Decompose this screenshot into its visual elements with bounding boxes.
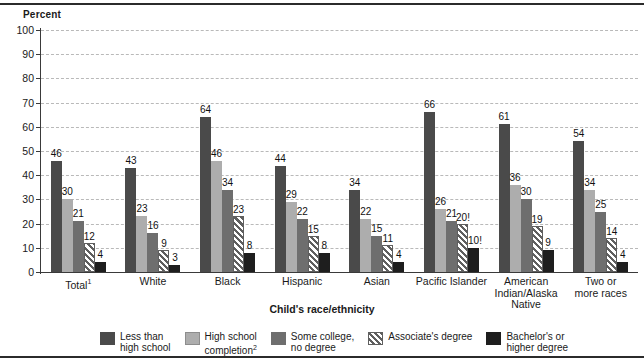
- bar[interactable]: 22: [297, 219, 308, 272]
- legend-label: Some college,no degree: [291, 331, 354, 353]
- bar-value-label: 54: [573, 128, 584, 139]
- bar-value-label: 29: [286, 189, 297, 200]
- chart-root: Percent 0102030405060708090100 463021124…: [0, 0, 644, 360]
- legend-swatch: [271, 332, 286, 345]
- legend-item[interactable]: Less thanhigh school: [100, 331, 171, 353]
- y-tick-label: 10: [0, 242, 34, 254]
- bar[interactable]: 34: [349, 190, 360, 272]
- bar[interactable]: 61: [499, 124, 510, 272]
- y-tick-label: 30: [0, 193, 34, 205]
- bar-value-label: 26: [435, 196, 446, 207]
- bar[interactable]: 44: [275, 166, 286, 272]
- y-tick-label: 80: [0, 72, 34, 84]
- bar[interactable]: 11: [382, 245, 393, 272]
- bar-group: 613630199AmericanIndian/AlaskaNative: [489, 30, 564, 272]
- bar-group: 543425144Two ormore races: [563, 30, 638, 272]
- bar[interactable]: 23: [233, 216, 244, 272]
- bar-value-label: 9: [161, 238, 167, 249]
- bar-value-label: 46: [51, 148, 62, 159]
- y-axis-title: Percent: [23, 9, 61, 20]
- bar[interactable]: 19: [532, 226, 543, 272]
- bar[interactable]: 46: [211, 161, 222, 272]
- legend-item[interactable]: High schoolcompletion2: [185, 331, 257, 356]
- legend-item[interactable]: Bachelor's orhigher degree: [486, 331, 568, 353]
- bar-group: 644634238Black: [190, 30, 265, 272]
- x-category-label: Hispanic: [282, 276, 322, 288]
- bar[interactable]: 64: [200, 117, 211, 272]
- y-tick-label: 40: [0, 169, 34, 181]
- bar-value-label: 46: [211, 148, 222, 159]
- bar[interactable]: 26: [435, 209, 446, 272]
- y-tick-label: 60: [0, 121, 34, 133]
- legend-label: Less thanhigh school: [120, 331, 171, 353]
- bar-value-label: 22: [297, 206, 308, 217]
- bar[interactable]: 23: [136, 216, 147, 272]
- legend-item[interactable]: Some college,no degree: [271, 331, 354, 353]
- legend-item[interactable]: Associate's degree: [368, 331, 472, 345]
- y-tick-label: 50: [0, 145, 34, 157]
- bar[interactable]: 21: [446, 221, 457, 272]
- bar-cluster: 43231693: [125, 30, 180, 272]
- bar[interactable]: 9: [543, 250, 554, 272]
- bar[interactable]: 54: [573, 141, 584, 272]
- legend-label: Bachelor's orhigher degree: [506, 331, 568, 353]
- bar[interactable]: 8: [244, 253, 255, 272]
- bar-value-label: 30: [521, 186, 532, 197]
- bar[interactable]: 9: [158, 250, 169, 272]
- y-tick-label: 100: [0, 24, 34, 36]
- bar[interactable]: 4: [617, 262, 628, 272]
- bar-cluster: 442922158: [275, 30, 330, 272]
- bar-group: 463021124Total1: [41, 30, 116, 272]
- bar[interactable]: 10!: [468, 248, 479, 272]
- bar[interactable]: 4: [393, 262, 404, 272]
- bar-value-label: 4: [98, 249, 104, 260]
- x-category-label: Black: [215, 276, 241, 288]
- bar-value-label: 36: [510, 172, 521, 183]
- bar-cluster: 66262120!10!: [424, 30, 479, 272]
- bar-value-label: 34: [584, 177, 595, 188]
- bar[interactable]: 21: [73, 221, 84, 272]
- bar[interactable]: 34: [584, 190, 595, 272]
- bar[interactable]: 36: [510, 185, 521, 272]
- bar[interactable]: 15: [371, 236, 382, 272]
- bar-group: 43231693White: [116, 30, 191, 272]
- y-axis-line: [40, 28, 41, 274]
- bar[interactable]: 3: [169, 265, 180, 272]
- bar[interactable]: 16: [147, 233, 158, 272]
- bar-cluster: 613630199: [499, 30, 554, 272]
- bar[interactable]: 46: [51, 161, 62, 272]
- bar-value-label: 43: [125, 155, 136, 166]
- chart-legend: Less thanhigh schoolHigh schoolcompletio…: [100, 331, 582, 356]
- bar-group: 66262120!10!Pacific Islander: [414, 30, 489, 272]
- bar[interactable]: 22: [360, 219, 371, 272]
- legend-label: High schoolcompletion2: [205, 331, 257, 356]
- bar-value-label: 25: [595, 199, 606, 210]
- bar-value-label: 11: [383, 233, 393, 244]
- x-category-label: Asian: [364, 276, 390, 288]
- legend-label: Associate's degree: [388, 331, 472, 342]
- bar[interactable]: 25: [595, 212, 606, 273]
- bar-value-label: 12: [84, 231, 95, 242]
- bar[interactable]: 30: [62, 199, 73, 272]
- plot-area: 463021124Total143231693White644634238Bla…: [41, 30, 638, 272]
- bar-value-label: 64: [200, 104, 211, 115]
- x-category-label: Pacific Islander: [416, 276, 487, 288]
- bar[interactable]: 66: [424, 112, 435, 272]
- bar[interactable]: 15: [308, 236, 319, 272]
- bar[interactable]: 12: [84, 243, 95, 272]
- bar[interactable]: 34: [222, 190, 233, 272]
- bar[interactable]: 4: [95, 262, 106, 272]
- bar-value-label: 20!: [456, 212, 470, 223]
- bar-value-label: 3: [172, 252, 178, 263]
- bar[interactable]: 29: [286, 202, 297, 272]
- y-tick-label: 20: [0, 218, 34, 230]
- bar[interactable]: 30: [521, 199, 532, 272]
- bar[interactable]: 8: [319, 253, 330, 272]
- bar[interactable]: 14: [606, 238, 617, 272]
- bar-value-label: 19: [532, 214, 543, 225]
- x-axis-title: Child's race/ethnicity: [0, 303, 644, 315]
- bar[interactable]: 43: [125, 168, 136, 272]
- bar-value-label: 44: [275, 153, 286, 164]
- bar-value-label: 34: [222, 177, 233, 188]
- bar[interactable]: 20!: [457, 224, 468, 272]
